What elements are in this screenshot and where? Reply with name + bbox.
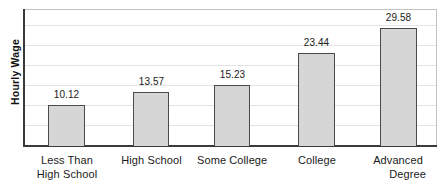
bar-less-than-high-school xyxy=(48,105,85,146)
bar-value-label: 13.57 xyxy=(121,76,182,87)
plot-right-border xyxy=(436,9,437,146)
gridline xyxy=(25,25,436,26)
x-axis-category-label: Advanced Degree xyxy=(364,153,432,181)
x-axis-category-label: College xyxy=(287,153,347,167)
bar-chart-figure: Hourly Wage 10.12 Less Than High School … xyxy=(0,0,446,192)
bar-advanced-degree xyxy=(380,28,417,146)
category-label-line1: College xyxy=(287,153,347,167)
x-axis-category-label: Less Than High School xyxy=(36,153,98,181)
bar-value-label: 29.58 xyxy=(368,12,429,23)
bar-value-label: 23.44 xyxy=(286,37,347,48)
category-label-line1: Some College xyxy=(197,153,267,167)
plot-top-border xyxy=(24,9,437,10)
gridline xyxy=(25,45,436,46)
x-axis-category-label: High School xyxy=(120,153,183,167)
bar-value-label: 15.23 xyxy=(202,69,263,80)
gridline xyxy=(25,65,436,66)
category-label-line1: High School xyxy=(120,153,183,167)
category-label-line2: Degree xyxy=(364,167,432,181)
y-axis-title: Hourly Wage xyxy=(9,24,21,120)
category-label-line1: Advanced xyxy=(364,153,432,167)
bar-college xyxy=(298,53,335,146)
category-label-line2: High School xyxy=(36,167,98,181)
x-axis-category-label: Some College xyxy=(197,153,267,167)
category-label-line1: Less Than xyxy=(36,153,98,167)
bar-high-school xyxy=(133,92,169,146)
y-axis-line xyxy=(23,9,25,147)
bar-some-college xyxy=(214,85,250,146)
bar-value-label: 10.12 xyxy=(36,89,97,100)
